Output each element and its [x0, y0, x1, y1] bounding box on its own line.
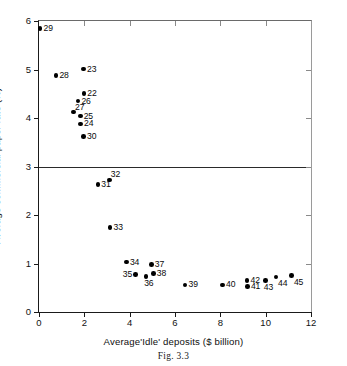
y-tick-1 [34, 264, 39, 265]
x-tick-top-8 [220, 21, 221, 26]
x-tick-label-6: 6 [172, 318, 177, 328]
data-point-label-41: 41 [251, 282, 260, 291]
data-point-31 [96, 182, 101, 187]
data-point-34 [124, 260, 129, 265]
y-tick-label-4: 4 [26, 113, 31, 123]
data-point-label-35: 35 [123, 270, 132, 279]
x-tick-label-12: 12 [306, 318, 317, 328]
data-point-23 [81, 67, 86, 72]
data-point-29 [38, 26, 43, 31]
data-point-25 [78, 114, 83, 119]
y-tick-6 [34, 21, 39, 22]
data-point-label-33: 33 [114, 223, 123, 232]
data-point-37 [149, 262, 154, 267]
x-tick-label-10: 10 [260, 318, 271, 328]
plot-area: 0123456024681012292823222627252430313233… [38, 20, 312, 313]
x-tick-label-2: 2 [82, 318, 87, 328]
data-point-label-30: 30 [87, 132, 96, 141]
data-point-40 [220, 283, 225, 288]
x-tick-label-0: 0 [36, 318, 41, 328]
data-point-label-38: 38 [157, 269, 166, 278]
x-tick-top-2 [84, 21, 85, 26]
x-tick-label-4: 4 [127, 318, 132, 328]
y-tick-label-1: 1 [26, 259, 31, 269]
figure-3-3: 0123456024681012292823222627252430313233… [0, 0, 347, 366]
y-tick-label-2: 2 [26, 210, 31, 220]
y-tick-label-6: 6 [26, 16, 31, 26]
data-point-label-29: 29 [44, 24, 53, 33]
y-tick-right-1 [306, 264, 311, 265]
data-point-label-32: 32 [111, 170, 120, 179]
y-tick-2 [34, 215, 39, 216]
y-tick-5 [34, 70, 39, 71]
data-point-35 [133, 272, 138, 277]
data-point-label-45: 45 [294, 278, 303, 287]
x-tick-top-10 [266, 21, 267, 26]
data-point-label-24: 24 [84, 119, 93, 128]
data-point-label-28: 28 [59, 71, 68, 80]
y-tick-right-2 [306, 215, 311, 216]
data-point-label-23: 23 [87, 65, 96, 74]
data-point-label-39: 39 [189, 280, 198, 289]
data-point-label-43: 43 [264, 283, 273, 292]
y-tick-right-4 [306, 118, 311, 119]
x-tick-label-8: 8 [218, 318, 223, 328]
data-point-30 [81, 134, 86, 139]
y-tick-label-5: 5 [26, 65, 31, 75]
data-point-label-34: 34 [130, 258, 139, 267]
y-tick-label-3: 3 [26, 162, 31, 172]
data-point-38 [151, 271, 156, 276]
data-point-label-40: 40 [226, 280, 235, 289]
data-point-42 [245, 278, 250, 283]
data-point-41 [245, 284, 250, 289]
data-point-28 [54, 73, 59, 78]
data-point-33 [108, 225, 113, 230]
data-point-39 [183, 283, 188, 288]
y-tick-3 [34, 167, 39, 168]
x-tick-top-4 [130, 21, 131, 26]
x-axis-title: Average'Idle' deposits ($ billion) [0, 336, 347, 347]
y-tick-4 [34, 118, 39, 119]
data-point-label-36: 36 [144, 279, 153, 288]
data-point-label-27: 27 [75, 103, 84, 112]
y-tick-right-5 [306, 70, 311, 71]
data-point-24 [78, 122, 83, 127]
figure-caption: Fig. 3.3 [0, 351, 347, 361]
data-point-label-44: 44 [278, 279, 287, 288]
x-tick-top-6 [175, 21, 176, 26]
reference-line-y-3 [39, 167, 311, 168]
y-tick-label-0: 0 [26, 307, 31, 317]
y-tick-right-3 [306, 167, 311, 168]
y-axis-title: Average commercial paper rate (%) [0, 16, 2, 316]
